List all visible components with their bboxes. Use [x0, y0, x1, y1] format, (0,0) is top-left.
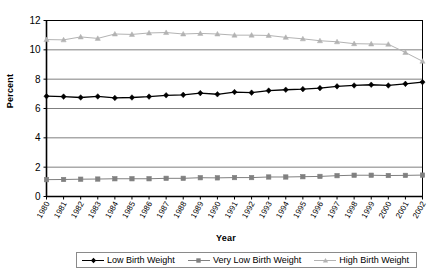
svg-text:2001: 2001: [394, 200, 411, 220]
x-axis-title: Year: [186, 233, 266, 243]
svg-text:1990: 1990: [206, 200, 223, 220]
x-axis-tick-labels: 1980198119821983198419851986198719881989…: [35, 200, 428, 220]
svg-text:1992: 1992: [240, 200, 257, 220]
svg-text:1987: 1987: [155, 200, 172, 220]
svg-text:2: 2: [35, 162, 41, 173]
svg-text:10: 10: [29, 44, 41, 55]
svg-text:8: 8: [35, 74, 41, 85]
y-axis-tick-labels: 024681012: [29, 15, 41, 202]
svg-text:12: 12: [29, 15, 41, 26]
svg-text:2000: 2000: [377, 200, 394, 220]
svg-text:1997: 1997: [326, 200, 343, 220]
svg-text:1995: 1995: [291, 200, 308, 220]
svg-text:1986: 1986: [138, 200, 155, 220]
svg-text:1984: 1984: [103, 200, 120, 220]
svg-text:1989: 1989: [189, 200, 206, 220]
legend-marker-square-icon: [188, 255, 210, 265]
svg-text:1994: 1994: [274, 200, 291, 220]
svg-text:4: 4: [35, 132, 41, 143]
svg-text:1991: 1991: [223, 200, 240, 220]
legend-item-low-birth-weight[interactable]: Low Birth Weight: [82, 255, 175, 265]
y-axis-title: Percent: [5, 61, 15, 121]
svg-text:1981: 1981: [52, 200, 69, 220]
svg-text:1993: 1993: [257, 200, 274, 220]
svg-text:1985: 1985: [120, 200, 137, 220]
legend-item-label: Low Birth Weight: [107, 255, 175, 265]
svg-text:1980: 1980: [35, 200, 52, 220]
svg-text:1983: 1983: [86, 200, 103, 220]
legend-item-high-birth-weight[interactable]: High Birth Weight: [314, 255, 409, 265]
legend-item-very-low-birth-weight[interactable]: Very Low Birth Weight: [188, 255, 301, 265]
legend-marker-diamond-icon: [82, 255, 104, 265]
svg-text:1996: 1996: [308, 200, 325, 220]
legend-item-label: Very Low Birth Weight: [213, 255, 301, 265]
legend-marker-triangle-icon: [314, 255, 336, 265]
gridlines: [44, 21, 423, 197]
legend-item-label: High Birth Weight: [339, 255, 409, 265]
chart-container: 024681012 198019811982198319841985198619…: [0, 0, 434, 280]
svg-text:1999: 1999: [360, 200, 377, 220]
svg-text:1982: 1982: [69, 200, 86, 220]
svg-text:1998: 1998: [343, 200, 360, 220]
svg-text:1988: 1988: [172, 200, 189, 220]
svg-text:6: 6: [35, 103, 41, 114]
svg-text:2002: 2002: [411, 200, 428, 220]
chart-legend: Low Birth Weight Very Low Birth Weight H…: [76, 252, 417, 268]
svg-text:0: 0: [35, 191, 41, 202]
data-series-layer: [44, 30, 425, 182]
